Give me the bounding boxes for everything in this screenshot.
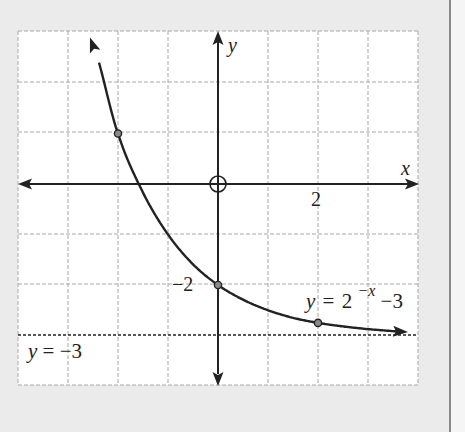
x-tick-label-2: 2 — [311, 188, 321, 210]
function-label-base: 2 — [342, 289, 353, 313]
function-label-eq: = — [323, 289, 335, 313]
y-axis-label: y — [226, 34, 237, 57]
function-graph: y x 2 −2 y = 2 −x −3 y = −3 — [0, 0, 465, 432]
function-label-exponent: −x — [357, 282, 375, 299]
asymptote-label: y = −3 — [26, 339, 82, 363]
asymptote-label-eq: = — [43, 339, 55, 363]
data-point-marker — [214, 281, 221, 288]
function-label-tail: −3 — [381, 289, 403, 313]
asymptote-label-y: y — [26, 339, 38, 363]
y-tick-label-neg2: −2 — [172, 273, 193, 295]
svg-text:y = −3: y = −3 — [26, 339, 82, 363]
data-point-marker — [314, 319, 321, 326]
function-label-y: y — [304, 289, 316, 313]
x-axis-label: x — [400, 157, 410, 179]
data-point-marker — [114, 130, 121, 137]
asymptote-label-value: −3 — [60, 339, 82, 363]
